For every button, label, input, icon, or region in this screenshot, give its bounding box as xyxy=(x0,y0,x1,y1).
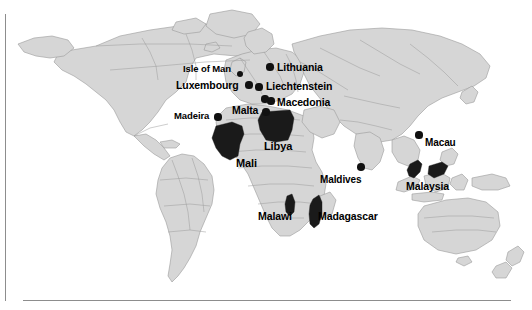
land-java xyxy=(412,192,444,202)
map-label-libya: Libya xyxy=(264,141,292,152)
land-south-america xyxy=(156,154,214,282)
map-label-maldives: Maldives xyxy=(320,175,361,185)
map-label-madeira: Madeira xyxy=(174,111,209,121)
land-alaska xyxy=(18,36,74,58)
land-australia xyxy=(418,198,500,254)
land-new-zealand xyxy=(506,246,524,266)
map-label-madagascar: Madagascar xyxy=(318,211,378,222)
map-label-liechtenstein: Liechtenstein xyxy=(266,81,332,92)
map-label-luxembourg: Luxembourg xyxy=(176,80,239,91)
world-map-graphic xyxy=(0,0,532,310)
marker-maldives-dot xyxy=(357,163,365,171)
map-label-macedonia: Macedonia xyxy=(277,97,330,108)
map-label-mali: Mali xyxy=(236,158,257,169)
map-label-malawi: Malawi xyxy=(258,211,292,222)
map-label-malta: Malta xyxy=(232,105,258,116)
marker-macau-dot xyxy=(415,131,422,138)
land-tasmania xyxy=(456,256,472,266)
marker-lithuania-dot xyxy=(266,63,273,70)
land-new-zealand-south xyxy=(492,262,512,278)
land-caribbean xyxy=(160,140,180,148)
frame-left-line xyxy=(5,14,6,301)
marker-liechtenstein-dot xyxy=(255,83,262,90)
marker-malta-dot xyxy=(261,95,268,102)
land-new-guinea xyxy=(472,174,510,190)
map-label-isle-of-man: Isle of Man xyxy=(183,64,231,74)
marker-madeira-dot xyxy=(214,113,221,120)
map-label-lithuania: Lithuania xyxy=(277,62,323,73)
world-map-figure: Isle of ManLithuaniaLuxembourgLiechtenst… xyxy=(0,0,532,310)
marker-malta-dot-2 xyxy=(262,108,269,115)
map-label-malaysia: Malaysia xyxy=(406,181,449,192)
frame-bottom-line xyxy=(23,300,511,301)
land-sulawesi xyxy=(450,174,468,190)
map-label-macau: Macau xyxy=(425,138,456,148)
marker-luxembourg-dot xyxy=(245,81,252,88)
